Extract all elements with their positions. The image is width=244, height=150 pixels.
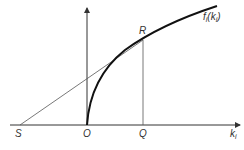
point-label-R: R <box>139 25 146 36</box>
point-label-O: O <box>83 128 91 139</box>
diagram-canvas: fi(ki) R S O Q ki <box>0 0 244 150</box>
x-axis-label: ki <box>230 128 237 140</box>
point-label-Q: Q <box>139 128 147 139</box>
curve-label: fi(ki) <box>203 11 221 23</box>
point-label-S: S <box>15 128 22 139</box>
tangent-line-SR <box>20 40 143 125</box>
